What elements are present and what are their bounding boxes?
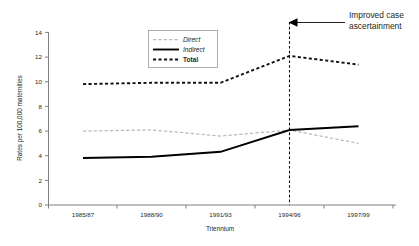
series-line-total — [83, 56, 359, 84]
x-tick-label-1985-87: 1985/87 — [72, 211, 95, 218]
y-tick-label-2: 2 — [39, 177, 43, 184]
legend-label-indirect: Indirect — [183, 46, 206, 53]
y-axis-ticks — [45, 32, 49, 205]
annotation-text-line-2: ascertainment — [349, 21, 402, 31]
chart-figure: 14 12 10 8 6 4 2 0 Rates per 100,000 mat… — [0, 0, 419, 246]
y-tick-label-0: 0 — [39, 201, 43, 208]
x-tick-label-1997-99: 1997/99 — [347, 211, 370, 218]
chart-legend: Direct Indirect Total — [149, 31, 218, 68]
series-line-indirect — [83, 126, 359, 158]
y-tick-label-8: 8 — [39, 103, 43, 110]
x-tick-label-1991-93: 1991/93 — [209, 211, 232, 218]
annotation-arrow-icon — [289, 18, 298, 26]
x-tick-label-1988-90: 1988/90 — [140, 211, 163, 218]
y-tick-label-14: 14 — [35, 29, 42, 36]
y-tick-label-4: 4 — [39, 152, 43, 159]
line-chart: 14 12 10 8 6 4 2 0 Rates per 100,000 mat… — [0, 0, 419, 246]
x-axis-ticks — [49, 205, 394, 209]
legend-label-direct: Direct — [183, 36, 201, 43]
y-axis-title: Rates per 100,000 maternities — [16, 75, 24, 161]
annotation-text-line-1: Improved case — [349, 10, 404, 20]
series-line-direct — [83, 130, 359, 144]
legend-label-total: Total — [183, 56, 198, 63]
y-tick-label-10: 10 — [35, 78, 42, 85]
x-axis-title: Triennium — [206, 225, 234, 232]
y-tick-label-12: 12 — [35, 53, 42, 60]
x-tick-label-1994-96: 1994/96 — [278, 211, 301, 218]
y-tick-label-6: 6 — [39, 127, 43, 134]
